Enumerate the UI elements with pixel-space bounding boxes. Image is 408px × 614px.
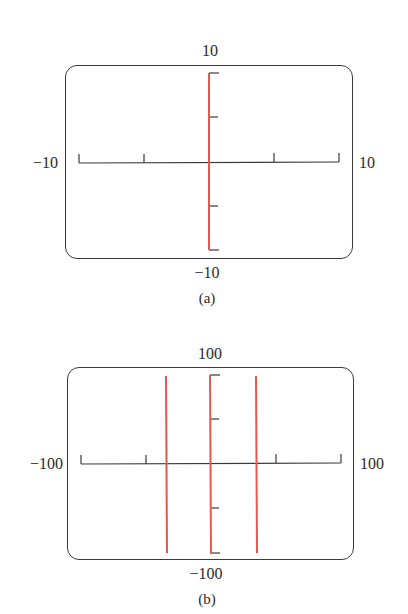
panel-b: 100 −100 100 −100 (b) [0,0,408,614]
trace-line-right [256,376,257,553]
trace-line-center [210,375,211,553]
ymin-label: −100 [189,566,222,582]
trace-line-left [166,376,167,553]
plot-area-b [0,0,408,614]
panel-caption: (b) [198,591,216,608]
